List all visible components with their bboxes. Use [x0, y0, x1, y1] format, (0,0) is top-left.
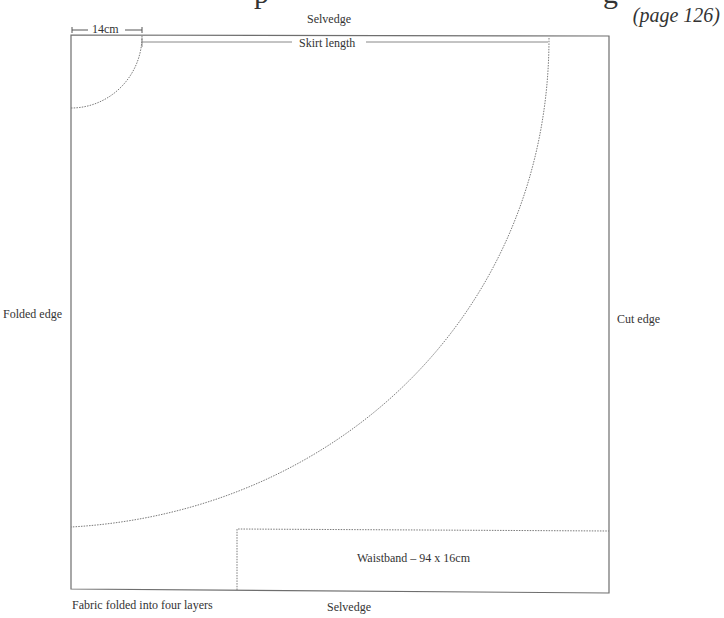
folded-edge-label: Folded edge: [3, 307, 62, 321]
cutting-layout-diagram: [0, 0, 724, 618]
fabric-outline: [71, 35, 609, 593]
waistband-label: Waistband – 94 x 16cm: [357, 551, 470, 565]
selvedge-bottom-label: Selvedge: [327, 600, 371, 614]
skirt-length-label: Skirt length: [299, 36, 355, 50]
selvedge-top-label: Selvedge: [307, 12, 351, 26]
hem-arc: [71, 38, 549, 527]
cut-edge-label: Cut edge: [617, 312, 660, 326]
fold-note-label: Fabric folded into four layers: [72, 598, 213, 612]
waist-measure-label: 14cm: [92, 22, 119, 36]
waist-arc: [71, 36, 142, 108]
